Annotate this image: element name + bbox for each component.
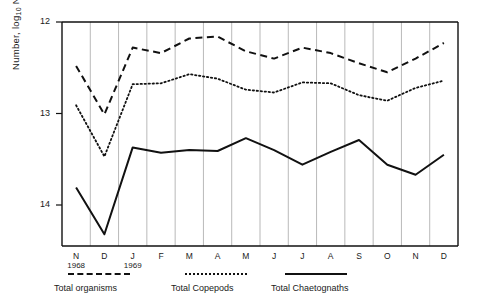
x-tick-label: D <box>89 251 119 261</box>
x-axis-year-label: 1969 <box>113 261 153 270</box>
x-tick-label: A <box>203 251 233 261</box>
legend-label: Total Chaetognaths <box>271 283 349 293</box>
legend-label: Total organisms <box>54 283 117 293</box>
x-tick-label: J <box>118 251 148 261</box>
x-tick-label: J <box>287 251 317 261</box>
x-tick-label: M <box>174 251 204 261</box>
x-tick-label: O <box>372 251 402 261</box>
x-tick-label: M <box>231 251 261 261</box>
y-tick-label: 14 <box>30 199 50 209</box>
x-tick-label: A <box>316 251 346 261</box>
x-tick-label: F <box>146 251 176 261</box>
x-tick-label: D <box>429 251 459 261</box>
legend-label: Total Copepods <box>171 283 234 293</box>
legend-key-dashed <box>68 273 130 275</box>
legend-key-dotted <box>185 273 247 275</box>
x-tick-label: S <box>344 251 374 261</box>
x-tick-label: J <box>259 251 289 261</box>
x-tick-label: N <box>401 251 431 261</box>
chart-figure: Number, log10 N 141312 NDJFMAMJJASOND196… <box>0 0 477 306</box>
y-tick-label: 13 <box>30 108 50 118</box>
x-tick-label: N <box>61 251 91 261</box>
x-axis-year-label: 1968 <box>56 261 96 270</box>
y-tick-label: 12 <box>30 16 50 26</box>
legend-key-solid <box>285 273 347 275</box>
